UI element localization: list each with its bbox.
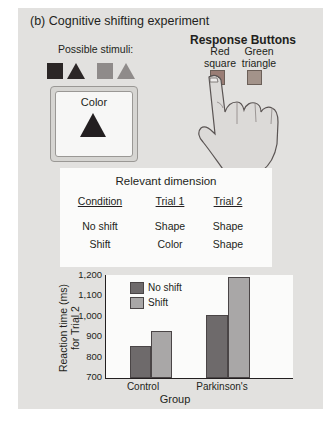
y-tick: 1,000 (62, 310, 102, 321)
bar-parkinsons-no-shift (206, 315, 228, 378)
response-label-line2: triangle (238, 57, 280, 69)
table-cell: No shift (70, 220, 130, 232)
bar-parkinsons-shift (228, 277, 250, 378)
table-cell: Shift (70, 238, 130, 250)
y-tick: 800 (62, 351, 102, 362)
legend-label-no-shift: No shift (148, 282, 182, 293)
hand-icon (195, 72, 305, 172)
y-tick: 700 (62, 371, 102, 382)
response-label-line2: square (203, 57, 237, 69)
table-header-trial2: Trial 2 (198, 195, 258, 207)
bar-control-shift (151, 331, 172, 378)
square-icon (97, 63, 113, 79)
response-label-line1: Green (238, 45, 280, 57)
display-cue-label: Color (55, 96, 133, 108)
y-tick: 1,100 (62, 289, 102, 300)
x-category-control: Control (110, 381, 176, 392)
x-category-parkinsons: Parkinson's (182, 381, 262, 392)
triangle-icon (117, 63, 135, 79)
response-label-red-square: Red square (203, 45, 237, 69)
response-label-line1: Red (203, 45, 237, 57)
table-header-trial1: Trial 1 (140, 195, 200, 207)
table-cell: Shape (140, 220, 200, 232)
y-tick: 900 (62, 330, 102, 341)
legend-label-shift: Shift (148, 297, 168, 308)
triangle-icon (80, 113, 106, 137)
y-tick: 1,200 (62, 269, 102, 280)
legend-swatch-shift (130, 297, 144, 309)
table-cell: Shape (198, 220, 258, 232)
table-header-condition: Condition (70, 195, 130, 207)
triangle-icon (67, 63, 85, 79)
chart-plot-area: No shift Shift (105, 275, 293, 379)
table-title: Relevant dimension (60, 175, 272, 187)
response-label-green-triangle: Green triangle (238, 45, 280, 69)
figure-title: (b) Cognitive shifting experiment (30, 14, 209, 28)
legend-swatch-no-shift (130, 282, 144, 294)
bar-control-no-shift (130, 346, 151, 378)
chart-x-axis-label: Group (155, 393, 195, 405)
table-cell: Shape (198, 238, 258, 250)
square-icon (47, 63, 63, 79)
table-cell: Color (140, 238, 200, 250)
stimuli-row (47, 63, 137, 79)
stimuli-label: Possible stimuli: (58, 43, 133, 55)
